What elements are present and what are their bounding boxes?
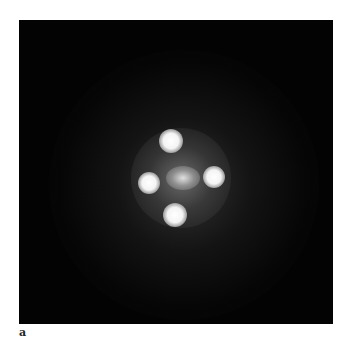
- lens-galaxy: [166, 166, 200, 190]
- quasar-image-top: [159, 129, 183, 153]
- quasar-image-right: [203, 166, 225, 188]
- quasar-image-left: [138, 172, 160, 194]
- quasar-image-bottom: [163, 203, 187, 227]
- panel-label: a: [19, 326, 26, 339]
- lensed-quasar-image: [19, 20, 333, 324]
